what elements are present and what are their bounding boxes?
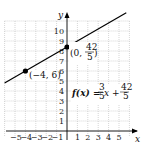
- svg-text:5: 5: [87, 52, 93, 62]
- function-label: f(x) = 3 5 x + 42 5: [71, 82, 135, 104]
- y-tick-label: 9: [59, 37, 64, 46]
- x-axis-arrow-icon: [132, 129, 138, 134]
- svg-text:5: 5: [123, 91, 129, 101]
- y-tick-label: 4: [59, 87, 64, 96]
- y-tick-label: 10: [54, 27, 64, 36]
- y-tick-label: 1: [59, 117, 64, 126]
- y-tick-label: 2: [59, 107, 64, 116]
- x-tick-label: 3: [96, 133, 101, 142]
- x-tick-label: −1: [52, 133, 64, 142]
- y-tick-label: 3: [59, 97, 64, 106]
- point-a-label: (−4, 6): [29, 70, 61, 80]
- point-b-label: (0, 42 5 ): [69, 42, 98, 64]
- x-axis-label: x: [135, 134, 140, 144]
- x-tick-label: 1: [75, 133, 80, 142]
- svg-text:f(x) =: f(x) =: [71, 88, 100, 98]
- point-a-marker: [23, 68, 28, 73]
- point-b-marker: [64, 44, 69, 49]
- line-chart: −5−4−3−2−11234512345678910 x y (−4, 6) (…: [0, 0, 144, 147]
- x-tick-label: 2: [85, 133, 90, 142]
- y-axis-label: y: [57, 10, 64, 20]
- svg-text:(0,: (0,: [70, 48, 82, 58]
- x-tick-label: 4: [106, 133, 111, 142]
- x-tick-label: 5: [117, 133, 122, 142]
- svg-text:): ): [94, 48, 98, 58]
- y-tick-label: 7: [59, 57, 64, 66]
- y-axis-arrow-icon: [65, 12, 70, 18]
- svg-text:x +: x +: [104, 88, 119, 98]
